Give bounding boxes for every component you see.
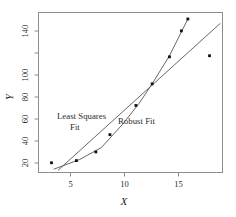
data-point xyxy=(151,82,154,85)
data-point-group xyxy=(50,18,211,165)
scatter-plot-canvas: 140 100 80 60 40 20 5 10 15 X Y Least xyxy=(0,0,236,217)
least-squares-fit-line xyxy=(58,23,220,170)
x-tick-label: 5 xyxy=(68,179,72,189)
x-tick-label: 15 xyxy=(174,179,183,189)
data-point xyxy=(50,161,53,164)
data-point xyxy=(75,159,78,162)
y-axis-ticks xyxy=(35,31,39,163)
robust-fit-line xyxy=(54,18,189,169)
least-squares-annotation-line1: Least Squares xyxy=(57,111,107,121)
y-axis-tick-labels: 140 100 80 60 40 20 xyxy=(20,25,30,168)
data-point xyxy=(94,151,97,154)
chart-figure: 140 100 80 60 40 20 5 10 15 X Y Least xyxy=(0,0,236,217)
y-axis-title: Y xyxy=(4,93,15,100)
y-tick-label: 60 xyxy=(20,115,30,124)
x-axis-title: X xyxy=(120,196,128,207)
y-tick-label: 100 xyxy=(20,69,30,82)
y-tick-label: 40 xyxy=(20,137,30,146)
data-point xyxy=(168,55,171,58)
robust-fit-annotation: Robust Fit xyxy=(118,116,155,126)
data-point xyxy=(180,29,183,32)
data-point xyxy=(186,18,189,21)
least-squares-annotation-line2: Fit xyxy=(70,122,80,132)
y-tick-label: 20 xyxy=(20,159,30,168)
x-tick-label: 10 xyxy=(120,179,129,189)
data-point xyxy=(109,133,112,136)
x-axis-ticks xyxy=(71,173,179,177)
data-point xyxy=(135,104,138,107)
y-tick-label: 80 xyxy=(20,93,30,102)
data-point xyxy=(208,54,211,57)
plot-frame xyxy=(39,13,223,173)
y-tick-label: 140 xyxy=(20,25,30,38)
x-axis-tick-labels: 5 10 15 xyxy=(68,179,182,189)
